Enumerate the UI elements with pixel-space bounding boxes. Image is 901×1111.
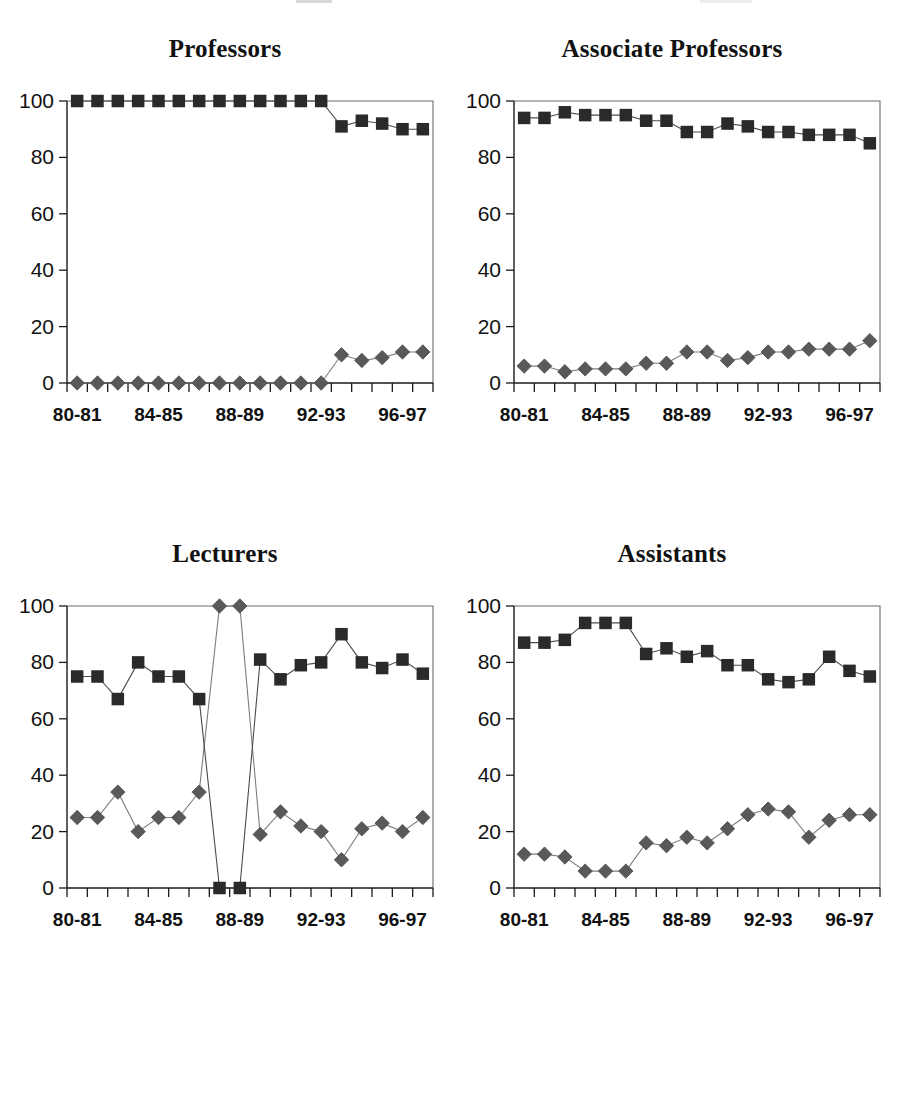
- y-axis-tick-label: 80: [31, 650, 54, 673]
- figure-root: Professors 02040608010080-8184-8588-8992…: [0, 0, 901, 1111]
- data-point-men: [559, 634, 572, 647]
- data-point-men: [701, 645, 714, 658]
- data-point-women: [680, 345, 694, 359]
- data-point-men: [234, 882, 247, 895]
- data-point-men: [335, 628, 348, 641]
- chart-panel-assistants: Assistants 02040608010080-8184-8588-8992…: [452, 540, 892, 980]
- data-point-men: [681, 651, 694, 664]
- data-point-women: [111, 376, 125, 390]
- data-point-women: [212, 376, 226, 390]
- y-axis-tick-label: 80: [478, 145, 501, 168]
- data-point-men: [782, 126, 795, 139]
- data-point-women: [537, 359, 551, 373]
- series-line-men: [77, 101, 423, 129]
- data-point-women: [842, 807, 856, 821]
- y-axis-tick-label: 100: [466, 594, 501, 617]
- series-line-men: [77, 634, 423, 888]
- data-point-women: [517, 359, 531, 373]
- y-axis-tick-label: 100: [466, 89, 501, 112]
- y-axis-tick-label: 20: [478, 820, 501, 843]
- data-point-men: [620, 617, 633, 630]
- data-point-men: [579, 109, 591, 122]
- data-point-men: [864, 670, 877, 683]
- data-point-men: [681, 126, 694, 139]
- chart-panel-lecturers: Lecturers 02040608010080-8184-8588-8992-…: [5, 540, 445, 980]
- scan-artifact-top-right: [700, 0, 752, 3]
- data-point-women: [781, 345, 795, 359]
- x-axis-tick-label: 84-85: [581, 909, 630, 930]
- series-line-women: [77, 352, 423, 383]
- data-point-women: [273, 376, 287, 390]
- x-axis-tick-label: 92-93: [297, 909, 346, 930]
- plot-svg-professors: 02040608010080-8184-8588-8992-9396-97: [5, 83, 445, 473]
- plot-svg-assistants: 02040608010080-8184-8588-8992-9396-97: [452, 588, 892, 978]
- data-point-men: [599, 109, 612, 122]
- data-point-women: [131, 824, 145, 838]
- data-point-men: [742, 659, 755, 672]
- chart-title-professors: Professors: [5, 35, 445, 63]
- data-point-women: [619, 362, 633, 376]
- data-point-women: [863, 807, 877, 821]
- data-point-women: [192, 785, 206, 799]
- legend-area: Legend % Women % Men: [0, 985, 901, 1100]
- x-axis-tick-label: 88-89: [216, 404, 265, 425]
- data-point-women: [720, 822, 734, 836]
- data-point-men: [640, 114, 653, 127]
- y-axis-tick-label: 100: [19, 89, 54, 112]
- data-point-women: [90, 376, 104, 390]
- data-point-women: [639, 356, 653, 370]
- data-point-women: [741, 807, 755, 821]
- data-point-women: [151, 810, 165, 824]
- data-point-men: [843, 129, 856, 142]
- data-point-men: [193, 95, 206, 108]
- y-axis-tick-label: 0: [489, 876, 501, 899]
- series-line-women: [524, 341, 870, 372]
- x-axis-tick-label: 96-97: [378, 404, 427, 425]
- data-point-men: [91, 95, 104, 108]
- data-point-men: [864, 137, 877, 150]
- y-axis-tick-label: 100: [19, 594, 54, 617]
- data-point-women: [842, 342, 856, 356]
- data-point-women: [151, 376, 165, 390]
- data-point-men: [274, 673, 287, 686]
- x-axis-tick-label: 96-97: [825, 909, 874, 930]
- x-axis-tick-label: 80-81: [500, 909, 549, 930]
- data-point-women: [558, 850, 572, 864]
- data-point-men: [71, 95, 84, 108]
- y-axis-tick-label: 60: [478, 707, 501, 730]
- chart-title-lecturers: Lecturers: [5, 540, 445, 568]
- data-point-men: [234, 95, 247, 108]
- series-line-women: [77, 606, 423, 860]
- data-point-men: [295, 95, 308, 108]
- data-point-men: [823, 129, 836, 142]
- chart-panel-associate-professors: Associate Professors 02040608010080-8184…: [452, 35, 892, 475]
- data-point-men: [356, 656, 369, 669]
- data-point-women: [416, 810, 430, 824]
- x-axis-tick-label: 92-93: [744, 404, 793, 425]
- data-point-women: [294, 819, 308, 833]
- y-axis-tick-label: 40: [31, 258, 54, 281]
- data-point-men: [538, 636, 551, 649]
- y-axis-tick-label: 40: [31, 763, 54, 786]
- data-point-men: [823, 651, 836, 664]
- data-point-women: [598, 864, 612, 878]
- data-point-women: [172, 376, 186, 390]
- data-point-women: [761, 802, 775, 816]
- data-point-men: [295, 659, 308, 672]
- data-point-men: [335, 120, 348, 133]
- data-point-women: [192, 376, 206, 390]
- data-point-men: [376, 117, 389, 130]
- data-point-men: [173, 95, 186, 108]
- chart-title-assistants: Assistants: [452, 540, 892, 568]
- series-line-men: [524, 112, 870, 143]
- data-point-women: [598, 362, 612, 376]
- data-point-men: [132, 95, 145, 108]
- y-axis-tick-label: 40: [478, 258, 501, 281]
- plot-area-assistants: 02040608010080-8184-8588-8992-9396-97: [452, 588, 892, 978]
- x-axis-tick-label: 80-81: [500, 404, 549, 425]
- data-point-men: [721, 659, 734, 672]
- plot-svg-associate-professors: 02040608010080-8184-8588-8992-9396-97: [452, 83, 892, 473]
- data-point-men: [152, 95, 165, 108]
- data-point-women: [131, 376, 145, 390]
- data-point-men: [91, 670, 104, 683]
